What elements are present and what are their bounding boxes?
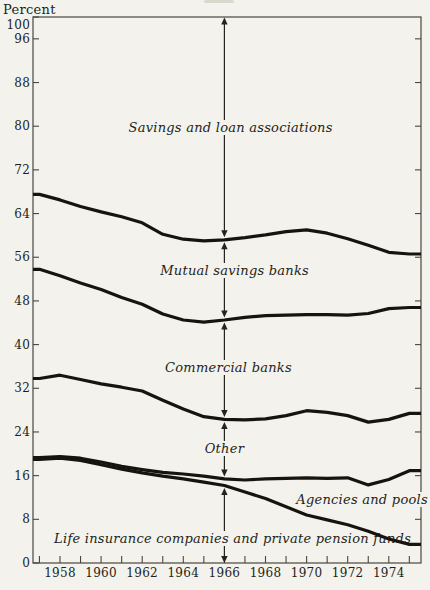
chart-canvas: Percent 10096888072645648403224168019581… — [0, 0, 430, 590]
y-axis-label: 8 — [2, 512, 30, 526]
y-axis-label: 56 — [2, 250, 30, 264]
y-axis-label: 40 — [2, 338, 30, 352]
y-axis-label: 16 — [2, 469, 30, 483]
x-axis-label: 1964 — [164, 566, 202, 580]
x-axis-label: 1972 — [329, 566, 367, 580]
y-axis-label: 72 — [2, 163, 30, 177]
x-axis-label: 1962 — [123, 566, 161, 580]
y-axis-label: 0 — [2, 556, 30, 570]
band-label-savings-and-loan-associations: Savings and loan associations — [126, 120, 336, 135]
y-axis-label: 80 — [2, 119, 30, 133]
labels-layer: Percent 10096888072645648403224168019581… — [0, 0, 430, 590]
x-axis-label: 1966 — [205, 566, 243, 580]
x-axis-label: 1974 — [370, 566, 408, 580]
y-axis-label: 64 — [2, 207, 30, 221]
y-axis-label: 48 — [2, 294, 30, 308]
x-axis-label: 1958 — [41, 566, 79, 580]
band-label-agencies-and-pools: Agencies and pools — [293, 492, 430, 507]
scan-artifact — [204, 0, 234, 3]
band-label-mutual-savings-banks: Mutual savings banks — [157, 263, 312, 278]
x-axis-label: 1970 — [288, 566, 326, 580]
y-axis-label: 100 — [2, 18, 30, 32]
x-axis-label: 1968 — [247, 566, 285, 580]
band-label-other: Other — [202, 441, 247, 456]
band-label-life-insurance-companies-and-private-pension-funds: Life insurance companies and private pen… — [51, 531, 414, 546]
y-axis-label: 88 — [2, 76, 30, 90]
y-axis-label: 32 — [2, 381, 30, 395]
y-axis-label: 24 — [2, 425, 30, 439]
band-label-commercial-banks: Commercial banks — [162, 360, 295, 375]
x-axis-label: 1960 — [82, 566, 120, 580]
y-axis-unit-label: Percent — [3, 2, 56, 17]
y-axis-label: 96 — [2, 32, 30, 46]
